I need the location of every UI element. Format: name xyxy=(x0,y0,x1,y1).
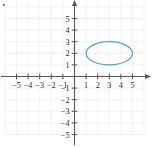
y-tick-label: 2 xyxy=(65,49,69,58)
x-tick-label: 5 xyxy=(130,81,134,90)
y-tick-label: 4 xyxy=(65,26,69,35)
y-tick-label: 1 xyxy=(65,61,69,70)
y-tick-label: −5 xyxy=(61,131,70,140)
x-tick-label: −2 xyxy=(47,81,56,90)
x-tick-label: −4 xyxy=(24,81,33,90)
tick-labels: −5−4−3−2−112345−5−4−3−2−1123457 xyxy=(12,0,134,139)
graph-figure: −5−4−3−2−112345−5−4−3−2−1123457 xyxy=(0,0,152,147)
x-axis-arrowhead xyxy=(145,74,151,79)
y-tick-label: −3 xyxy=(61,107,70,116)
y-axis-arrowhead xyxy=(72,0,77,6)
x-tick-label: 1 xyxy=(84,81,88,90)
x-tick-label: 4 xyxy=(119,81,123,90)
y-tick-label: −4 xyxy=(61,119,70,128)
y-tick-label: −2 xyxy=(61,96,70,105)
x-tick-label: −5 xyxy=(12,81,21,90)
y-tick-label: 5 xyxy=(65,15,69,24)
coordinate-plane-plot: −5−4−3−2−112345−5−4−3−2−1123457 xyxy=(0,0,152,147)
y-tick-label: 3 xyxy=(65,38,69,47)
x-tick-label: 2 xyxy=(96,81,100,90)
y-tick-label: −1 xyxy=(61,84,70,93)
x-tick-label: 3 xyxy=(107,81,111,90)
x-tick-label: −3 xyxy=(35,81,44,90)
